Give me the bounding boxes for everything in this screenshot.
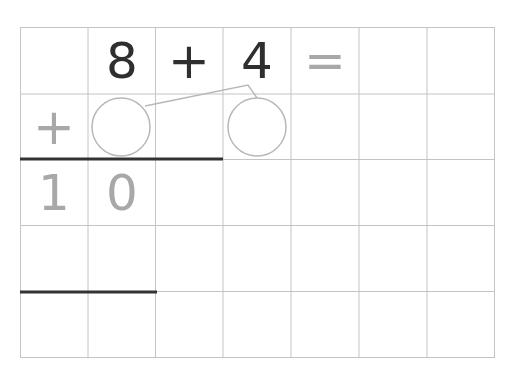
result-ones-digit: 0 [88,160,156,226]
equals-sign: = [291,28,359,94]
decomposition-plus-sign: + [20,94,88,160]
result-tens-digit: 1 [20,160,88,226]
operator-plus: + [155,28,223,94]
first-operand: 8 [88,28,156,94]
second-operand: 4 [223,28,291,94]
math-worksheet: 8 + 4 = + 1 0 [0,0,519,375]
blank-circle-2[interactable] [228,98,286,156]
blank-circle-1[interactable] [92,98,150,156]
